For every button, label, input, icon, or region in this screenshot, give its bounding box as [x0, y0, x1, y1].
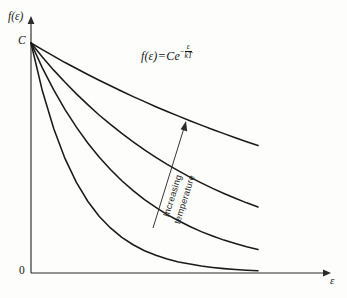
- increasing-temperature-arrowhead: [181, 121, 188, 131]
- figure-container: f(ε) C 0 ε f(ε)=Ce−εkT Increasing temper…: [0, 0, 347, 298]
- equation-operator: =: [157, 49, 166, 63]
- equation-exponent-denominator: kT: [185, 52, 193, 60]
- equation-lhs: f(ε): [141, 49, 157, 63]
- equation-annotation: f(ε)=Ce−εkT: [141, 44, 192, 64]
- curve-series-3: [31, 43, 258, 207]
- equation-exponent: −εkT: [180, 43, 192, 60]
- x-axis-label: ε: [330, 274, 334, 286]
- y-intercept-label-c: C: [18, 34, 26, 46]
- equation-base: Ce: [166, 49, 180, 63]
- curve-series-2: [31, 43, 258, 250]
- curve-group: [31, 43, 258, 271]
- origin-label-zero: 0: [19, 264, 25, 276]
- equation-exponent-fraction: εkT: [185, 43, 193, 60]
- y-axis-label: f(ε): [8, 10, 23, 22]
- curve-series-1: [31, 43, 258, 271]
- y-axis-arrowhead: [28, 16, 35, 24]
